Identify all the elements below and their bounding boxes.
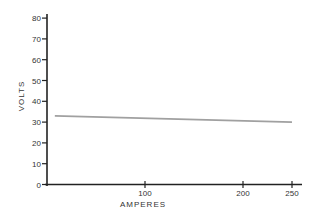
- y-tick-label: 30: [32, 118, 41, 127]
- y-tick-label: 0: [37, 181, 42, 190]
- chart: 01020304050607080 100200250 VOLTS AMPERE…: [0, 0, 315, 219]
- x-tick-label: 200: [236, 189, 250, 198]
- y-tick-label: 10: [32, 160, 41, 169]
- y-axis-label: VOLTS: [17, 81, 26, 112]
- y-tick-label: 70: [32, 35, 41, 44]
- y-tick-label: 80: [32, 14, 41, 23]
- x-axis-label: AMPERES: [120, 200, 166, 209]
- y-tick-label: 50: [32, 77, 41, 86]
- y-tick-label: 40: [32, 97, 41, 106]
- x-tick-label: 100: [138, 189, 152, 198]
- x-axis-ticks: 100200250: [138, 181, 299, 198]
- series-line: [55, 116, 292, 122]
- y-axis-ticks: 01020304050607080: [32, 14, 47, 189]
- x-tick-label: 250: [285, 189, 299, 198]
- y-tick-label: 20: [32, 139, 41, 148]
- data-series: [55, 116, 292, 122]
- y-tick-label: 60: [32, 56, 41, 65]
